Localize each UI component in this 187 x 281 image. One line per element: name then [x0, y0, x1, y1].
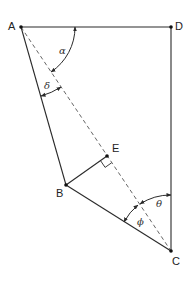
label-a: A — [8, 20, 16, 32]
label-alpha: α — [59, 45, 66, 56]
point-d — [169, 25, 173, 29]
label-phi: ϕ — [137, 216, 144, 227]
point-e — [105, 154, 109, 158]
point-a — [19, 25, 23, 29]
point-c — [169, 249, 173, 253]
segment-be — [66, 156, 107, 185]
label-delta: δ — [44, 80, 50, 91]
label-d: D — [175, 20, 183, 32]
label-e: E — [112, 142, 119, 154]
label-b: B — [56, 187, 63, 199]
angle-arc-phi — [124, 205, 138, 222]
point-b — [64, 183, 68, 187]
geometry-diagram: A D B E C α δ θ ϕ — [0, 0, 187, 281]
segment-bc — [66, 185, 171, 251]
label-theta: θ — [156, 198, 162, 209]
segment-ac-dashed — [21, 27, 171, 251]
right-angle-marker — [101, 161, 112, 168]
label-c: C — [172, 255, 180, 267]
